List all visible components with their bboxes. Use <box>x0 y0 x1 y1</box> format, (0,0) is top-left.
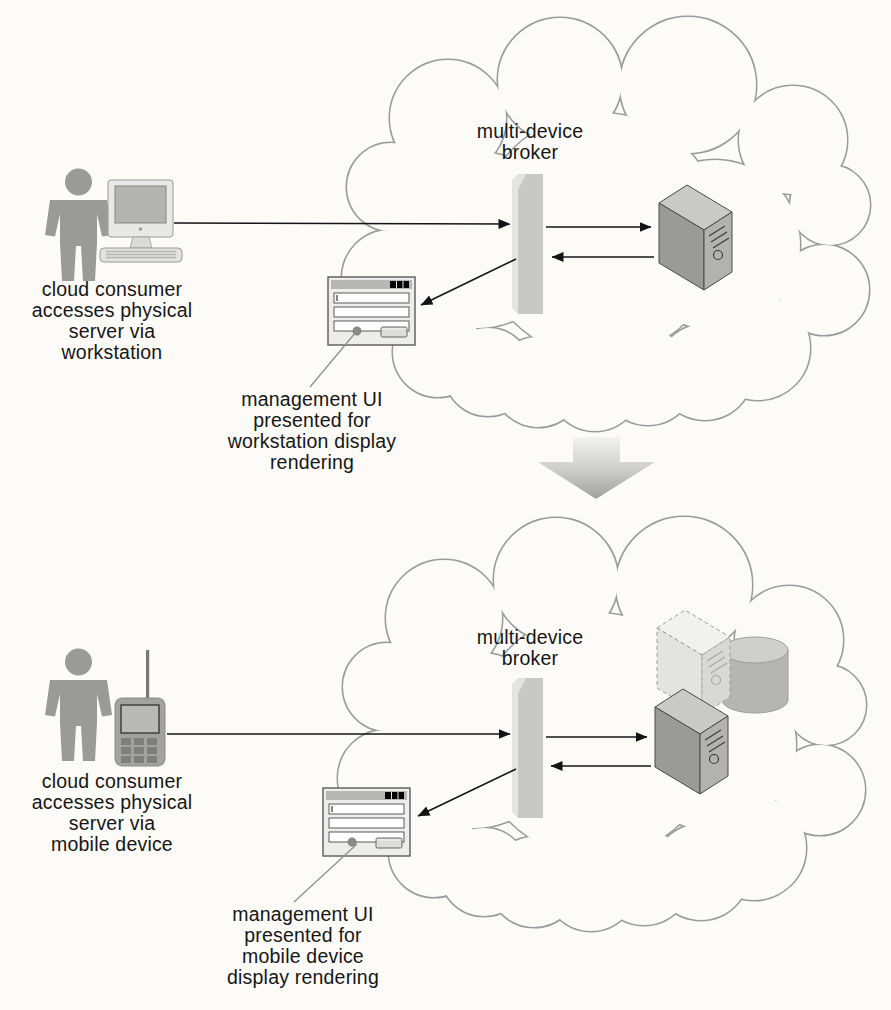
figure-canvas: cloud consumer accesses physical server … <box>0 0 891 1010</box>
multi-device-broker-panel-icon <box>512 174 543 314</box>
diagram-vector-layer <box>0 0 891 1010</box>
storage-cylinder-icon <box>722 637 788 713</box>
person-icon <box>45 169 112 282</box>
bottom-broker-label: multi-device broker <box>477 627 583 669</box>
bottom-cloud-boundary <box>338 517 866 931</box>
management-ui-window-icon <box>323 788 410 856</box>
down-arrow-icon <box>538 437 655 499</box>
top-broker-label: multi-device broker <box>477 121 583 163</box>
request-arrow-workstation <box>174 223 510 224</box>
bottom-ui-caption: management UI presented for mobile devic… <box>227 904 379 988</box>
management-ui-window-icon <box>328 277 415 345</box>
top-ui-caption: management UI presented for workstation … <box>228 389 397 473</box>
bottom-consumer-caption: cloud consumer accesses physical server … <box>32 771 193 855</box>
multi-device-broker-panel-icon <box>512 678 543 818</box>
person-icon <box>45 649 112 762</box>
mobile-phone-icon <box>115 650 165 766</box>
workstation-icon <box>100 180 182 262</box>
top-consumer-caption: cloud consumer accesses physical server … <box>32 279 193 363</box>
